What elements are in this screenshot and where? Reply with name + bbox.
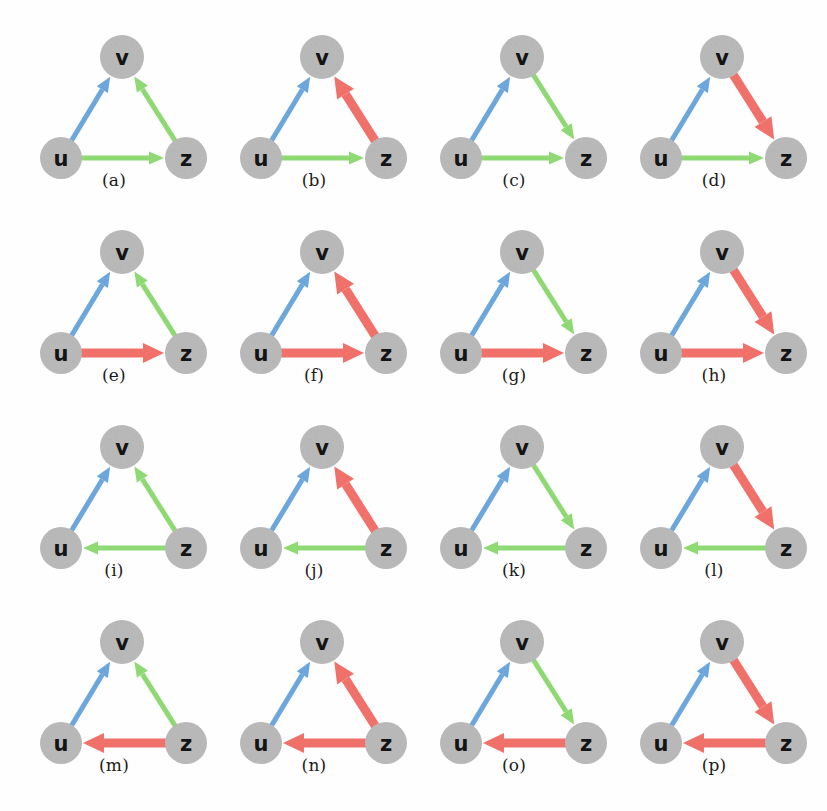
node-label-v: v	[115, 436, 129, 460]
edge-layer	[71, 271, 176, 363]
panel-caption-c: (c)	[414, 170, 614, 190]
node-label-v: v	[715, 46, 729, 70]
panel-caption-f: (f)	[214, 365, 414, 385]
node-label-z: z	[780, 147, 792, 171]
edge-z-to-v-shaft	[346, 679, 376, 727]
edge-z-to-v-shaft	[346, 289, 376, 337]
node-label-u: u	[454, 732, 469, 756]
edge-layer	[671, 74, 774, 165]
graph-panel-g: vuz(g)	[414, 205, 614, 400]
panel-caption-m: (m)	[14, 755, 214, 775]
panel-caption-l: (l)	[614, 560, 814, 580]
edge-u-to-v-shaft	[671, 90, 703, 142]
edge-u-to-v-shaft	[671, 285, 703, 337]
edge-z-to-u-arrowhead	[283, 733, 304, 753]
node-label-u: u	[54, 732, 69, 756]
graph-panel-c: vuz(c)	[414, 10, 614, 205]
node-label-u: u	[654, 147, 669, 171]
node-label-v: v	[515, 436, 529, 460]
edge-u-to-v-shaft	[471, 675, 503, 727]
edge-u-to-v-shaft	[471, 90, 503, 142]
node-label-u: u	[254, 732, 269, 756]
node-label-z: z	[180, 342, 192, 366]
graph-panel-i: vuz(i)	[14, 400, 214, 595]
edge-u-to-v-shaft	[671, 480, 703, 532]
edge-u-to-v-shaft	[71, 675, 103, 727]
edge-u-to-v-shaft	[71, 90, 103, 142]
edge-u-to-z-arrowhead	[349, 152, 364, 165]
node-label-z: z	[380, 147, 392, 171]
panel-caption-j: (j)	[214, 560, 414, 580]
graph-panel-d: vuz(d)	[614, 10, 814, 205]
panel-grid: vuz(a)vuz(b)vuz(c)vuz(d)vuz(e)vuz(f)vuz(…	[0, 0, 827, 790]
panel-caption-n: (n)	[214, 755, 414, 775]
edge-layer	[471, 659, 574, 753]
node-label-v: v	[315, 46, 329, 70]
node-label-v: v	[515, 241, 529, 265]
graph-panel-o: vuz(o)	[414, 595, 614, 790]
graph-panel-p: vuz(p)	[614, 595, 814, 790]
panel-caption-g: (g)	[414, 365, 614, 385]
edge-u-to-v-shaft	[271, 675, 303, 727]
node-label-v: v	[115, 631, 129, 655]
edge-z-to-v-shaft	[346, 484, 376, 532]
panel-caption-p: (p)	[614, 755, 814, 775]
node-label-u: u	[254, 537, 269, 561]
node-label-v: v	[515, 46, 529, 70]
graph-panel-a: vuz(a)	[14, 10, 214, 205]
edge-u-to-v-shaft	[671, 675, 703, 727]
graph-panel-l: vuz(l)	[614, 400, 814, 595]
edge-v-to-z-shaft	[533, 659, 566, 712]
graph-panel-m: vuz(m)	[14, 595, 214, 790]
edge-v-to-z-shaft	[733, 269, 763, 317]
graph-panel-f: vuz(f)	[214, 205, 414, 400]
node-label-v: v	[515, 631, 529, 655]
node-label-z: z	[580, 342, 592, 366]
edge-z-to-u-arrowhead	[683, 542, 698, 555]
edge-z-to-v-shaft	[142, 284, 175, 337]
node-label-u: u	[254, 147, 269, 171]
edge-z-to-u-arrowhead	[283, 542, 298, 555]
node-label-v: v	[315, 241, 329, 265]
node-label-u: u	[454, 147, 469, 171]
graph-panel-b: vuz(b)	[214, 10, 414, 205]
node-label-v: v	[315, 631, 329, 655]
edge-u-to-v-shaft	[271, 285, 303, 337]
node-label-z: z	[780, 342, 792, 366]
edge-u-to-z-arrowhead	[743, 343, 764, 363]
panel-caption-e: (e)	[14, 365, 214, 385]
edge-u-to-v-shaft	[471, 480, 503, 532]
edge-u-to-z-arrowhead	[749, 152, 764, 165]
node-label-u: u	[54, 342, 69, 366]
edge-u-to-z-arrowhead	[549, 152, 564, 165]
node-label-u: u	[654, 342, 669, 366]
edge-u-to-v-shaft	[271, 480, 303, 532]
edge-u-to-v-shaft	[71, 285, 103, 337]
panel-caption-o: (o)	[414, 755, 614, 775]
node-label-u: u	[654, 732, 669, 756]
node-label-v: v	[715, 631, 729, 655]
edge-layer	[71, 466, 176, 554]
edge-z-to-v-shaft	[142, 674, 175, 727]
node-label-v: v	[715, 241, 729, 265]
node-label-z: z	[380, 732, 392, 756]
edge-v-to-z-shaft	[533, 269, 566, 322]
panel-caption-a: (a)	[14, 170, 214, 190]
node-label-z: z	[580, 732, 592, 756]
edge-u-to-z-arrowhead	[543, 343, 564, 363]
graph-panel-k: vuz(k)	[414, 400, 614, 595]
edge-u-to-z-arrowhead	[143, 343, 164, 363]
graph-panel-e: vuz(e)	[14, 205, 214, 400]
edge-layer	[71, 661, 176, 753]
edge-layer	[471, 74, 574, 165]
edge-layer	[271, 76, 376, 164]
edge-layer	[671, 659, 774, 753]
edge-v-to-z-shaft	[733, 74, 763, 122]
edge-layer	[271, 466, 376, 554]
node-label-u: u	[454, 342, 469, 366]
edge-v-to-z-shaft	[733, 659, 763, 707]
edge-z-to-u-arrowhead	[483, 542, 498, 555]
edge-u-to-v-shaft	[71, 480, 103, 532]
edge-v-to-z-shaft	[533, 74, 566, 127]
node-label-u: u	[454, 537, 469, 561]
